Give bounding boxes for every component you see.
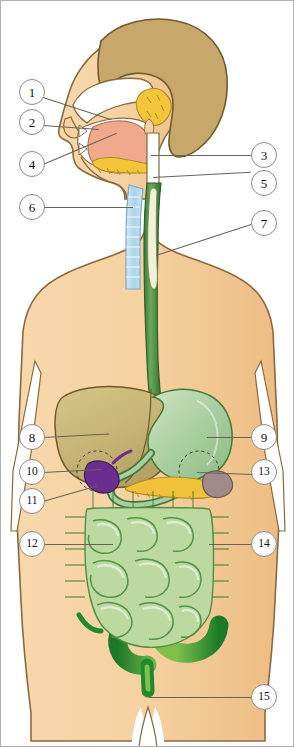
small-intestine: [85, 508, 214, 648]
leader-line-9: [207, 437, 253, 438]
callout-14[interactable]: 14: [251, 531, 277, 557]
callout-10[interactable]: 10: [19, 459, 45, 485]
callout-1[interactable]: 1: [19, 79, 45, 105]
head-profile: [59, 19, 228, 199]
digestive-system-diagram: 1 2 3 4 5 6 7 8 9 10 11 12 13 14 15: [0, 0, 294, 747]
callout-8[interactable]: 8: [19, 424, 45, 450]
callout-2[interactable]: 2: [19, 109, 45, 135]
leader-line-12: [43, 544, 113, 545]
leader-line-3: [151, 155, 251, 156]
callout-15[interactable]: 15: [251, 684, 277, 710]
callout-12[interactable]: 12: [19, 531, 45, 557]
callout-6[interactable]: 6: [19, 194, 45, 220]
callout-3[interactable]: 3: [251, 142, 277, 168]
leader-line-15: [149, 697, 253, 698]
callout-13[interactable]: 13: [251, 459, 277, 485]
callout-4[interactable]: 4: [19, 151, 45, 177]
leader-line-6: [43, 207, 133, 208]
callout-5[interactable]: 5: [251, 170, 277, 196]
trachea: [126, 185, 143, 289]
leader-line-14: [209, 544, 253, 545]
callout-11[interactable]: 11: [19, 488, 45, 514]
anatomy-illustration: [1, 1, 294, 747]
callout-7[interactable]: 7: [251, 210, 277, 236]
callout-9[interactable]: 9: [251, 424, 277, 450]
